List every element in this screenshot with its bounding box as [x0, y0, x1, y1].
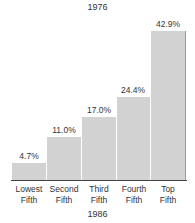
bar-lowest-fifth	[12, 163, 46, 180]
category-line: Fifth	[11, 195, 47, 206]
bar-fourth-fifth	[117, 97, 150, 180]
category-label: FourthFifth	[116, 184, 152, 206]
category-line: Lowest	[11, 184, 47, 195]
category-label: LowestFifth	[11, 184, 47, 206]
value-label: 4.7%	[11, 151, 47, 161]
bar-top-fifth	[151, 31, 186, 180]
bar-second-fifth	[47, 137, 81, 180]
value-label: 17.0%	[81, 105, 117, 115]
bar-third-fifth	[82, 117, 116, 180]
category-label: SecondFifth	[46, 184, 82, 206]
category-line: Fifth	[46, 195, 82, 206]
category-line: Fourth	[116, 184, 152, 195]
category-line: Fifth	[150, 195, 186, 206]
category-line: Second	[46, 184, 82, 195]
category-line: Fifth	[81, 195, 117, 206]
category-label: TopFifth	[150, 184, 186, 206]
value-label: 42.9%	[150, 19, 186, 29]
value-label: 11.0%	[46, 125, 82, 135]
category-line: Fifth	[116, 195, 152, 206]
category-line: Top	[150, 184, 186, 195]
chart-title: 1976	[0, 2, 195, 12]
value-label: 24.4%	[115, 85, 151, 95]
category-line: Third	[81, 184, 117, 195]
category-label: ThirdFifth	[81, 184, 117, 206]
x-axis-line	[11, 180, 187, 181]
chart-subtitle: 1986	[0, 209, 195, 219]
